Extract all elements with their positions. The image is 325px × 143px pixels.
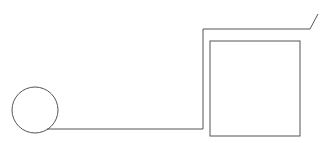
circle-shape: [12, 87, 58, 133]
square-shape: [210, 41, 300, 136]
diagram-canvas: [0, 0, 325, 143]
connector-line: [47, 14, 318, 129]
